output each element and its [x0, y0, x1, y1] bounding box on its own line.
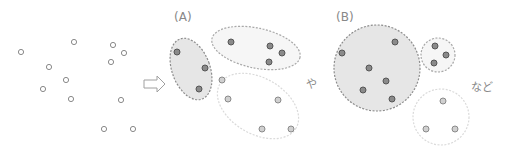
raw-point — [46, 64, 51, 69]
raw-point — [121, 50, 126, 55]
cluster-b1 — [334, 25, 420, 111]
cluster-a3-point — [288, 126, 294, 132]
right-arrow-icon — [144, 76, 165, 92]
raw-point — [63, 77, 68, 82]
cluster-b3-point — [452, 126, 458, 132]
cluster-a2 — [208, 19, 304, 77]
cluster-b2-point — [443, 52, 449, 58]
cluster-a1 — [162, 32, 220, 105]
label-option-a: (A) — [174, 10, 192, 24]
cluster-b1-point — [383, 78, 389, 84]
raw-point — [110, 42, 115, 47]
raw-point — [108, 59, 113, 64]
cluster-a1-point — [196, 86, 202, 92]
clustering-b — [334, 25, 469, 145]
cluster-a3-point — [219, 77, 225, 83]
cluster-b1-point — [360, 87, 366, 93]
raw-point — [101, 126, 106, 131]
cluster-b1-point — [366, 65, 372, 71]
separator-text: や — [306, 78, 317, 91]
cluster-b3-point — [423, 126, 429, 132]
raw-point — [40, 86, 45, 91]
cluster-a2-point — [266, 59, 272, 65]
cluster-a1-point — [174, 49, 180, 55]
cluster-b1-point — [339, 50, 345, 56]
cluster-b3 — [413, 89, 469, 145]
cluster-a2-point — [267, 43, 273, 49]
cluster-a2-point — [279, 50, 285, 56]
cluster-b2-point — [432, 43, 438, 49]
cluster-a3-point — [275, 97, 281, 103]
cluster-a3-point — [225, 96, 231, 102]
cluster-b2-point — [431, 60, 437, 66]
raw-point — [118, 97, 123, 102]
raw-point — [68, 96, 73, 101]
clustering-diagram: (A) や (B) など — [0, 0, 506, 152]
cluster-a3 — [206, 60, 310, 152]
cluster-b3-point — [440, 98, 446, 104]
raw-point — [130, 126, 135, 131]
raw-point — [18, 49, 23, 54]
raw-points-group — [18, 39, 135, 131]
cluster-a1-point — [202, 65, 208, 71]
ending-text: など — [471, 81, 493, 94]
cluster-a3-point — [259, 126, 265, 132]
cluster-b1-point — [392, 39, 398, 45]
cluster-b1-point — [389, 96, 395, 102]
cluster-b2 — [421, 38, 455, 72]
raw-point — [71, 39, 76, 44]
clustering-a — [162, 19, 310, 152]
label-option-b: (B) — [336, 10, 354, 24]
cluster-a2-point — [228, 39, 234, 45]
